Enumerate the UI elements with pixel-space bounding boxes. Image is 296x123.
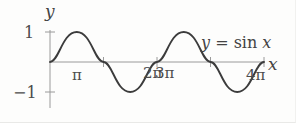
y-axis-label: y	[45, 3, 55, 20]
curve-equation-rhs: x	[262, 33, 271, 52]
x-tick-label-pi: π	[72, 68, 82, 83]
curve-equation-lhs: y	[201, 33, 210, 52]
y-tick-label-one: 1	[24, 25, 34, 41]
sine-function-plot: y x 1 −1 π 2π 3π 4π y = sin x	[0, 0, 296, 123]
y-tick-label-negative-one: −1	[13, 85, 37, 101]
curve-equation-operator: = sin	[210, 33, 262, 52]
x-tick-label-3pi: 3π	[155, 66, 174, 81]
x-tick-label-4pi: 4π	[246, 68, 265, 83]
x-axis-label: x	[268, 56, 278, 73]
curve-equation-label: y = sin x	[201, 35, 271, 51]
